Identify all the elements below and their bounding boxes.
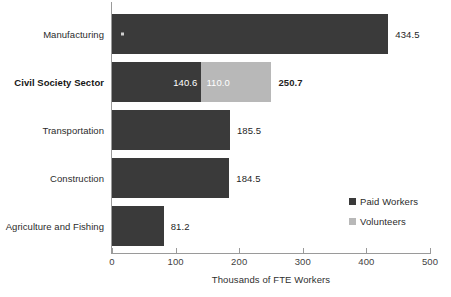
x-axis-tick — [366, 248, 367, 254]
legend-item[interactable]: Volunteers — [349, 214, 418, 229]
category-label: Civil Society Sector — [14, 77, 104, 88]
bar-row: Civil Society Sector140.6110.0250.7 — [0, 62, 451, 102]
x-axis-line — [111, 253, 431, 254]
bar-total-label: 185.5 — [237, 125, 261, 136]
bar-row: Transportation185.5 — [0, 110, 451, 150]
x-axis-tick-label: 500 — [422, 256, 438, 267]
bar-row: Construction184.5 — [0, 158, 451, 198]
x-axis-title: Thousands of FTE Workers — [111, 274, 431, 285]
bar-segment-paid-workers — [112, 206, 164, 246]
bar-speck-artifact — [121, 33, 124, 36]
x-axis-tick — [176, 248, 177, 254]
category-label: Agriculture and Fishing — [6, 221, 104, 232]
x-axis-tick — [430, 248, 431, 254]
x-axis-tick-label: 0 — [109, 256, 114, 267]
plot-area: 0100200300400500 Manufacturing434.5Civil… — [0, 0, 451, 297]
category-label: Transportation — [42, 125, 104, 136]
legend-label: Paid Workers — [360, 196, 418, 207]
x-axis-tick-label: 200 — [231, 256, 247, 267]
legend-item[interactable]: Paid Workers — [349, 194, 418, 209]
x-axis-tick-label: 400 — [358, 256, 374, 267]
bar-segment-paid-workers — [112, 110, 230, 150]
bar-track: 185.5 — [112, 110, 430, 150]
category-label: Manufacturing — [43, 29, 104, 40]
x-axis-tick-label: 100 — [168, 256, 184, 267]
chart-legend: Paid WorkersVolunteers — [349, 194, 418, 234]
bar-row: Manufacturing434.5 — [0, 14, 451, 54]
x-axis-tick — [112, 248, 113, 254]
bar-segment-value-volunteers: 110.0 — [206, 77, 230, 88]
bar-segment-value-paid-workers: 140.6 — [173, 77, 197, 88]
legend-swatch-icon — [349, 198, 356, 205]
legend-label: Volunteers — [360, 216, 406, 227]
bar-track: 184.5 — [112, 158, 430, 198]
x-axis-tick-label: 300 — [295, 256, 311, 267]
bar-track: 140.6110.0250.7 — [112, 62, 430, 102]
bar-segment-paid-workers: 140.6 — [112, 62, 201, 102]
bar-total-label: 250.7 — [278, 77, 302, 88]
bar-total-label: 434.5 — [395, 29, 419, 40]
x-axis-tick — [239, 248, 240, 254]
bar-segment-paid-workers — [112, 158, 229, 198]
bar-segment-volunteers: 110.0 — [201, 62, 271, 102]
category-label: Construction — [50, 173, 104, 184]
legend-swatch-icon — [349, 218, 356, 225]
x-axis-tick — [303, 248, 304, 254]
bar-total-label: 184.5 — [236, 173, 260, 184]
bar-chart: 0100200300400500 Manufacturing434.5Civil… — [0, 0, 451, 297]
bar-track: 434.5 — [112, 14, 430, 54]
bar-total-label: 81.2 — [171, 221, 190, 232]
bar-segment-paid-workers — [112, 14, 388, 54]
